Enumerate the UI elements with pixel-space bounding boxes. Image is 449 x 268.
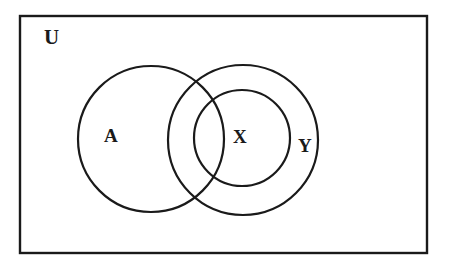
venn-diagram-graphic bbox=[0, 0, 449, 268]
set-y-label: Y bbox=[298, 136, 312, 155]
set-a-label: A bbox=[104, 126, 118, 145]
universe-label: U bbox=[44, 27, 59, 48]
set-x-label: X bbox=[233, 127, 247, 146]
set-a-circle bbox=[78, 66, 224, 212]
venn-diagram-canvas: U A X Y bbox=[0, 0, 449, 268]
